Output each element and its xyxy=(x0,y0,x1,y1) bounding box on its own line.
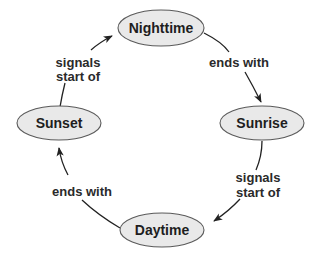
edge-label-signals-right: signals xyxy=(236,170,281,185)
arrow-sunset-to-nighttime xyxy=(60,83,65,107)
node-nighttime: Nighttime xyxy=(118,10,204,46)
node-daytime: Daytime xyxy=(120,213,204,247)
edge-nighttime-to-sunrise: ends with xyxy=(204,33,269,102)
arrow-nighttime-to-sunrise-tail xyxy=(245,72,261,102)
arrow-sunrise-to-daytime-tail xyxy=(214,199,240,221)
arrow-daytime-to-sunset xyxy=(82,200,120,228)
arrow-daytime-to-sunset-tail xyxy=(59,148,68,175)
day-night-cycle-diagram: ends with signals start of ends with sig… xyxy=(0,0,322,261)
node-sunrise-label: Sunrise xyxy=(236,115,288,131)
edge-label-ends-with-left: ends with xyxy=(52,184,112,199)
arrow-sunrise-to-daytime xyxy=(256,141,262,170)
node-sunrise: Sunrise xyxy=(220,106,304,140)
edge-daytime-to-sunset: ends with xyxy=(52,148,120,228)
node-nighttime-label: Nighttime xyxy=(129,20,194,36)
arrow-nighttime-to-sunrise xyxy=(204,33,229,52)
arrow-sunset-to-nighttime-tail xyxy=(91,36,112,50)
edge-label-ends-with-right: ends with xyxy=(209,55,269,70)
edge-label-start-of-right: start of xyxy=(236,185,281,200)
edge-label-start-of-left: start of xyxy=(56,69,101,84)
edge-sunrise-to-daytime: signals start of xyxy=(214,141,281,221)
node-sunset: Sunset xyxy=(17,106,101,140)
node-sunset-label: Sunset xyxy=(36,115,83,131)
edge-sunset-to-nighttime: signals start of xyxy=(56,36,112,107)
node-daytime-label: Daytime xyxy=(135,222,190,238)
edge-label-signals-left: signals xyxy=(56,55,101,70)
